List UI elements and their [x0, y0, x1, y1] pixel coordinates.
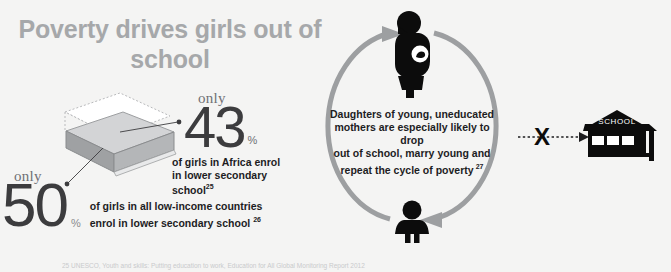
school-window-3 [622, 136, 634, 145]
stat-50-footnote-ref: 26 [253, 216, 261, 223]
stat-43-percent-symbol: % [248, 134, 258, 146]
school-sign-label: SCHOOL [598, 117, 635, 126]
blocked-arrow-svg: X [518, 112, 590, 162]
cycle-text-line1: Daughters of young, uneducated [330, 108, 494, 120]
school-window-2 [607, 136, 619, 145]
cycle-text-line3: out of school, marry young and [334, 147, 491, 159]
pregnant-woman-icon [395, 11, 430, 98]
page-title: Poverty drives girls out of school [10, 14, 330, 74]
school-svg: SCHOOL [583, 108, 665, 166]
stat-50-block: only 50 % of girls in all low-income cou… [2, 168, 292, 232]
stat-43-value: 43 [184, 102, 245, 152]
stat-50-value-row: 50 % of girls in all low-income countrie… [2, 178, 292, 232]
cycle-footnote-ref: 27 [476, 163, 484, 170]
stat-50-percent-symbol: % [71, 217, 81, 229]
young-girl-icon [395, 201, 429, 244]
stat-50-description: of girls in all low-income countries enr… [90, 200, 263, 230]
cycle-description: Daughters of young, uneducated mothers a… [326, 108, 498, 177]
cycle-text-line2: mothers are especially likely to drop [334, 121, 489, 146]
school-base [588, 153, 654, 157]
cycle-text-line4: repeat the cycle of poverty [341, 164, 474, 176]
stat-50-desc-line1: of girls in all low-income countries [90, 200, 263, 212]
footnote-citation: 25 UNESCO, Youth and skills: Putting edu… [62, 261, 622, 270]
stat-43-desc-line1: of girls in Africa enrol [172, 156, 280, 168]
blocked-x-marker: X [534, 123, 550, 150]
school-window-1 [592, 136, 604, 145]
stat-43-value-row: 43 % [184, 102, 307, 152]
stat-50-desc-line2: enrol in lower secondary school [90, 216, 250, 228]
school-building-icon: SCHOOL [583, 108, 665, 166]
stat-50-value: 50 [2, 178, 67, 232]
blocked-path-to-school: X [518, 112, 590, 162]
infographic-canvas: Poverty drives girls out of school only … [0, 0, 671, 272]
